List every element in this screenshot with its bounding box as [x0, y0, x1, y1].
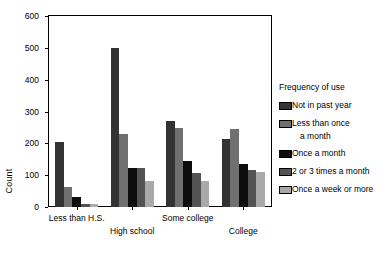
x-tick-mark [77, 207, 78, 210]
x-tick-label: Some college [143, 213, 233, 223]
legend-items: Not in past yearLess than oncea monthOnc… [279, 101, 387, 194]
bar [145, 181, 154, 207]
bar [81, 204, 90, 207]
legend-item-label: Once a week or more [292, 185, 373, 194]
bar [201, 181, 210, 207]
legend-item-label-continued: a month [300, 132, 387, 141]
bar [192, 173, 201, 207]
bar-chart-figure: Count 6005004003002001000 Less than H.S.… [0, 0, 388, 263]
bar [72, 197, 81, 207]
legend-title: Frequency of use [279, 82, 387, 92]
plot-area [49, 16, 271, 207]
legend-swatch-icon [279, 120, 292, 128]
legend-swatch-icon [279, 150, 292, 158]
legend-item-label: Once a month [292, 149, 345, 158]
legend-item[interactable]: Not in past year [279, 101, 387, 110]
bar [175, 128, 184, 207]
y-axis-title: Count [4, 151, 14, 211]
legend-swatch-icon [279, 168, 292, 176]
x-tick-label: Less than H.S. [32, 213, 122, 223]
legend-item[interactable]: 2 or 3 times a month [279, 167, 387, 176]
x-tick-mark [188, 207, 189, 210]
y-tick-label: 400 [13, 76, 39, 85]
x-tick-label: High school [87, 226, 177, 236]
bar [239, 164, 248, 207]
legend-swatch-icon [279, 186, 292, 194]
bar [90, 204, 99, 207]
bar [119, 134, 128, 207]
bar [64, 187, 73, 207]
legend-item-label: Not in past year [292, 101, 352, 110]
bar [222, 139, 231, 207]
x-tick-mark [132, 207, 133, 210]
bar [230, 129, 239, 207]
bar [183, 161, 192, 207]
x-tick-label: College [198, 226, 288, 236]
y-tick-label: 500 [13, 44, 39, 53]
bar [256, 172, 265, 207]
bar [111, 48, 120, 207]
bar [166, 121, 175, 207]
y-tick-label: 300 [13, 108, 39, 117]
legend-swatch-icon [279, 102, 292, 110]
bar [137, 168, 146, 207]
bar [55, 142, 64, 207]
bar [248, 170, 257, 207]
bar [128, 168, 137, 207]
legend-item[interactable]: Less than once [279, 119, 387, 128]
x-tick-mark [243, 207, 244, 210]
legend-item-label: 2 or 3 times a month [292, 167, 369, 176]
y-tick-mark [45, 207, 48, 208]
y-tick-label: 600 [13, 12, 39, 21]
y-tick-label: 0 [13, 203, 39, 212]
chart-legend: Frequency of use Not in past yearLess th… [279, 82, 387, 203]
legend-item[interactable]: Once a month [279, 149, 387, 158]
y-tick-label: 100 [13, 171, 39, 180]
legend-item[interactable]: Once a week or more [279, 185, 387, 194]
legend-item-label: Less than once [292, 119, 350, 128]
y-tick-label: 200 [13, 139, 39, 148]
